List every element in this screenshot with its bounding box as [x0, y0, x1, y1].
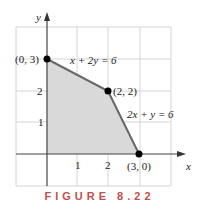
- equation-label-1: x + 2y = 6: [69, 54, 117, 66]
- figure-caption: FIGURE 8.22: [0, 190, 199, 202]
- tick-x2: 2: [105, 159, 111, 171]
- point-2-2: [105, 88, 112, 95]
- y-axis-arrow-icon: [44, 12, 50, 21]
- point-label-3-0: (3, 0): [127, 160, 151, 173]
- tick-y1: 1: [38, 116, 44, 128]
- point-label-2-2: (2, 2): [113, 85, 137, 98]
- point-0-3: [44, 56, 51, 63]
- x-axis-arrow-icon: [177, 151, 186, 157]
- tick-x1: 1: [75, 159, 81, 171]
- point-3-0: [136, 151, 143, 158]
- equation-label-2: 2x + y = 6: [127, 108, 174, 120]
- tick-y2: 2: [37, 85, 43, 97]
- chart-canvas: y x 1 2 1 2 (0, 3) (2, 2) (3, 0) x + 2y …: [0, 0, 199, 190]
- point-label-0-3: (0, 3): [15, 53, 39, 66]
- y-axis-label: y: [35, 11, 41, 23]
- feasible-region: [47, 59, 139, 154]
- x-axis-label: x: [185, 160, 191, 172]
